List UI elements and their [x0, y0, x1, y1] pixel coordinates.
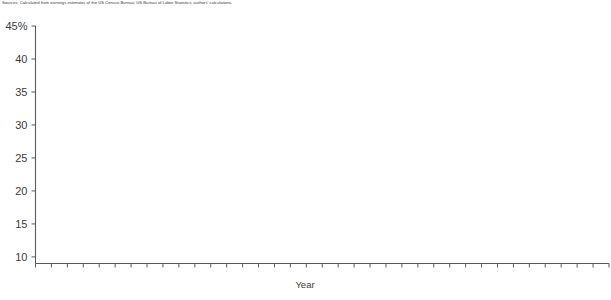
source-caption: Sources: Calculated from earnings estima… — [2, 0, 602, 5]
y-axis-ticks — [32, 26, 36, 257]
y-tick-label: 30 — [15, 119, 27, 131]
y-tick-label: 35 — [15, 86, 27, 98]
y-tick-label: 20 — [15, 185, 27, 197]
y-tick-label: 40 — [15, 53, 27, 65]
x-axis-title: Year — [295, 279, 314, 290]
y-tick-label: 10 — [15, 251, 27, 263]
chart-figure: Sources: Calculated from earnings estima… — [0, 0, 611, 300]
y-axis-tick-labels: 1015202530354045% — [5, 20, 27, 263]
y-tick-label: 45% — [5, 20, 27, 32]
y-tick-label: 25 — [15, 152, 27, 164]
line-chart-plot: 1015202530354045% Year — [0, 0, 611, 300]
y-tick-label: 15 — [15, 218, 27, 230]
x-axis-ticks — [36, 264, 610, 268]
